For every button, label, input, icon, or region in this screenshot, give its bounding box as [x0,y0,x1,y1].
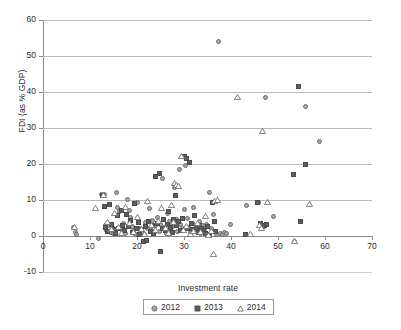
gridline [43,20,372,21]
y-tick-mark [39,128,43,129]
data-point-2013 [213,229,218,234]
data-point-2012 [150,218,155,223]
data-point-2012 [185,216,190,221]
data-point-2013 [197,223,202,228]
y-tick-mark [39,164,43,165]
data-point-2013 [168,225,173,230]
data-point-2014 [134,214,140,219]
x-tick-label: 10 [78,242,102,251]
data-point-2014 [158,205,164,210]
data-point-2012 [177,167,182,172]
data-point-2013 [163,228,168,233]
data-point-2014 [183,223,189,228]
data-point-2012 [262,224,267,229]
data-point-2013 [139,227,144,232]
data-point-2014 [258,225,264,230]
data-point-2012 [167,219,172,224]
data-point-2013 [192,213,197,218]
gridline [43,164,372,165]
legend-label: 2013 [204,302,223,312]
legend-label: 2012 [161,302,180,312]
data-point-2013 [153,174,158,179]
data-point-2012 [115,205,120,210]
data-point-2013 [128,218,133,223]
data-point-2013 [264,222,269,227]
data-point-2013 [102,204,107,209]
x-tick-label: 30 [172,242,196,251]
data-point-2013 [174,223,179,228]
data-point-2014 [162,225,168,230]
gridline [43,272,372,273]
data-point-2013 [116,226,121,231]
data-point-2014 [190,228,196,233]
data-point-2013 [291,172,296,177]
data-point-2014 [194,220,200,225]
data-point-2014 [168,202,174,207]
data-point-2012 [152,230,157,235]
data-point-2014 [118,230,124,235]
data-point-2013 [111,227,116,232]
data-point-2012 [99,192,104,197]
gridline [43,128,372,129]
data-point-2012 [155,215,160,220]
data-point-2012 [188,230,193,235]
square-marker-icon [194,304,200,310]
data-point-2013 [109,222,114,227]
data-point-2014 [100,192,106,197]
data-point-2012 [160,176,165,181]
legend-item-2012[interactable]: 2012 [151,302,180,312]
data-point-2013 [176,219,181,224]
data-point-2014 [71,224,77,229]
data-point-2013 [258,221,263,226]
data-point-2013 [262,223,267,228]
data-point-2012 [128,215,133,220]
data-point-2014 [104,219,110,224]
gridline [43,56,372,57]
legend-item-2013[interactable]: 2013 [194,302,223,312]
data-point-2013 [166,209,171,214]
data-point-2013 [173,193,178,198]
data-point-2012 [191,205,196,210]
legend-item-2014[interactable]: 2014 [237,302,266,312]
data-point-2012 [131,228,136,233]
data-point-2012 [71,225,76,230]
data-point-2013 [136,220,141,225]
gridline [43,200,372,201]
data-point-2012 [213,230,218,235]
data-point-2014 [175,183,181,188]
data-point-2012 [292,239,297,244]
x-tick-label: 20 [125,242,149,251]
gridline [43,92,372,93]
data-point-2013 [180,216,185,221]
data-point-2013 [194,225,199,230]
data-point-2013 [171,217,176,222]
data-point-2012 [200,223,205,228]
data-point-2012 [256,200,261,205]
data-point-2012 [244,203,249,208]
data-point-2013 [212,219,217,224]
data-point-2012 [143,220,148,225]
data-point-2012 [303,104,308,109]
x-tick-mark [90,236,91,240]
x-tick-mark [184,236,185,240]
data-point-2012 [140,230,145,235]
data-point-2014 [306,201,312,206]
y-tick-label: 50 [14,51,36,60]
data-point-2012 [108,230,113,235]
data-point-2013 [134,226,139,231]
data-point-2014 [234,94,240,99]
data-point-2012 [204,222,209,227]
data-point-2012 [170,224,175,229]
data-point-2013 [122,228,127,233]
y-tick-label: 10 [14,195,36,204]
y-tick-mark [39,92,43,93]
data-point-2012 [180,226,185,231]
zero-line [43,236,372,237]
data-point-2012 [190,221,195,226]
x-axis-title: Investment rate [43,283,373,293]
data-point-2012 [120,229,125,234]
data-point-2012 [102,192,107,197]
y-tick-label: 0 [14,231,36,240]
data-point-2012 [202,227,207,232]
data-point-2013 [126,224,131,229]
